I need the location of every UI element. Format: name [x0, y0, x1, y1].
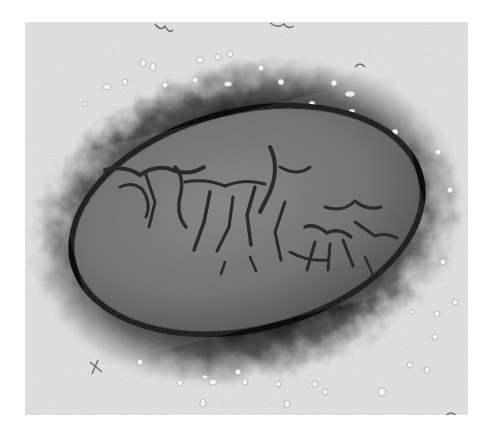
virion-micrograph — [25, 22, 468, 415]
micrograph-frame — [25, 22, 468, 415]
